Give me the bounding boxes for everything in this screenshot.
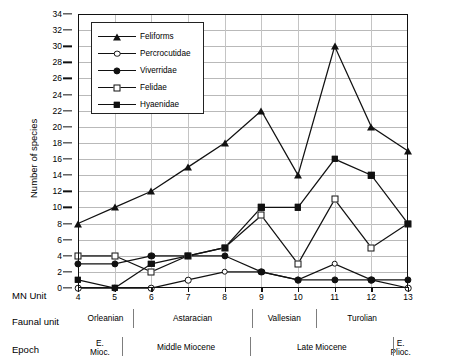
- y-tick-mark: [63, 175, 72, 176]
- row-label-epoch: Epoch: [12, 344, 39, 355]
- x-tick-label: 10: [293, 292, 302, 302]
- chart-figure: Number of species 0246810121416182022242…: [0, 0, 460, 363]
- legend-label: Percrocutidae: [137, 49, 191, 58]
- band-divider: [316, 309, 317, 328]
- y-tick-label: 30: [53, 41, 62, 51]
- y-tick-label: 16: [53, 154, 62, 164]
- y-tick-label: 2: [57, 267, 62, 277]
- band-cell: Late Miocene: [250, 334, 393, 362]
- legend-item-hyaenidae[interactable]: Hyaenidae: [97, 96, 199, 113]
- y-tick-mark: [63, 94, 72, 95]
- band-cell: E.Plioc.: [393, 334, 408, 362]
- legend: Feliforms Percrocutidae Viverridae Felid…: [91, 22, 204, 114]
- y-tick-mark: [63, 158, 72, 159]
- legend-item-percrocutidae[interactable]: Percrocutidae: [97, 45, 199, 62]
- band-divider: [250, 337, 251, 356]
- x-tick-label: 11: [330, 292, 339, 302]
- legend-item-feliforms[interactable]: Feliforms: [97, 28, 199, 45]
- filled-circle-icon: [97, 65, 137, 77]
- y-tick-mark: [63, 255, 72, 256]
- y-tick-mark: [63, 239, 72, 240]
- row-label-mn-unit: MN Unit: [12, 290, 46, 301]
- plot-area: Feliforms Percrocutidae Viverridae Felid…: [78, 14, 408, 288]
- y-tick-mark: [63, 271, 72, 272]
- filled-triangle-icon: [97, 31, 137, 43]
- open-square-icon: [97, 82, 137, 94]
- x-tick-label: 9: [259, 292, 264, 302]
- y-tick-mark: [63, 191, 72, 192]
- filled-square-icon: [97, 99, 137, 111]
- band-cell: Middle Miocene: [122, 334, 250, 362]
- y-tick-label: 12: [53, 186, 62, 196]
- y-tick-label: 18: [53, 138, 62, 148]
- x-tick-label: 4: [76, 292, 81, 302]
- open-circle-icon: [97, 48, 137, 60]
- y-tick-mark: [63, 142, 72, 143]
- legend-item-felidae[interactable]: Felidae: [97, 79, 199, 96]
- band-cell: Orleanian: [78, 306, 133, 332]
- legend-label: Viverridae: [137, 66, 177, 75]
- y-tick-label: 28: [53, 57, 62, 67]
- y-tick-label: 26: [53, 73, 62, 83]
- y-tick-label: 6: [57, 235, 62, 245]
- legend-label: Hyaenidae: [137, 100, 179, 109]
- legend-label: Feliforms: [137, 32, 174, 41]
- y-tick-label: 4: [57, 251, 62, 261]
- y-tick-label: 22: [53, 106, 62, 116]
- band-cell: Vallesian: [252, 306, 316, 332]
- band-divider: [252, 309, 253, 328]
- epoch-band: E.Mioc.Middle MioceneLate MioceneE.Plioc…: [78, 334, 408, 362]
- y-tick-mark: [63, 110, 72, 111]
- y-tick-label: 20: [53, 122, 62, 132]
- y-tick-label: 14: [53, 170, 62, 180]
- band-divider: [122, 337, 123, 356]
- x-axis-tick-labels: 45678910111213: [78, 292, 408, 306]
- y-tick-mark: [63, 29, 72, 30]
- y-tick-mark: [63, 78, 72, 79]
- y-tick-mark: [63, 207, 72, 208]
- x-tick-label: 8: [222, 292, 227, 302]
- y-tick-mark: [63, 223, 72, 224]
- y-tick-label: 34: [53, 9, 62, 19]
- row-label-faunal-unit: Faunal unit: [12, 316, 59, 327]
- x-tick-label: 13: [403, 292, 412, 302]
- y-tick-label: 24: [53, 90, 62, 100]
- band-cell: E.Mioc.: [78, 334, 122, 362]
- y-axis-tick-labels: 0246810121416182022242628303234: [0, 14, 78, 288]
- y-tick-label: 8: [57, 219, 62, 229]
- y-tick-mark: [63, 13, 72, 14]
- legend-label: Felidae: [137, 83, 167, 92]
- y-tick-label: 32: [53, 25, 62, 35]
- y-tick-label: 0: [57, 283, 62, 293]
- y-tick-mark: [63, 126, 72, 127]
- x-tick-label: 12: [367, 292, 376, 302]
- x-tick-label: 6: [149, 292, 154, 302]
- band-divider: [393, 337, 394, 356]
- x-tick-label: 7: [186, 292, 191, 302]
- y-tick-mark: [63, 46, 72, 47]
- y-tick-mark: [63, 287, 72, 288]
- y-tick-mark: [63, 62, 72, 63]
- y-tick-label: 10: [53, 202, 62, 212]
- faunal-unit-band: OrleanianAstaracianVallesianTurolian: [78, 306, 408, 332]
- band-cell: Astaracian: [133, 306, 252, 332]
- band-divider: [133, 309, 134, 328]
- legend-item-viverridae[interactable]: Viverridae: [97, 62, 199, 79]
- band-cell: Turolian: [316, 306, 408, 332]
- x-tick-label: 5: [112, 292, 117, 302]
